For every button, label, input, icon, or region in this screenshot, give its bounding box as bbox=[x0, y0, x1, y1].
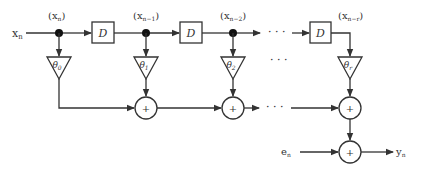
gain-triangle-0: θ0 bbox=[47, 57, 71, 79]
ellipsis-middle: · · · bbox=[270, 54, 287, 67]
line-delay-r-to-gain-r bbox=[331, 33, 350, 56]
svg-text:D: D bbox=[186, 27, 196, 40]
output-label: yn bbox=[395, 146, 406, 158]
gain-triangle-1: θ1 bbox=[134, 57, 158, 79]
svg-text:+: + bbox=[346, 147, 354, 158]
delay-box-r: D bbox=[310, 22, 331, 43]
svg-text:+: + bbox=[229, 103, 237, 114]
output-adder: + bbox=[339, 141, 361, 163]
delay-box-1: D bbox=[92, 22, 114, 43]
adder-2: + bbox=[222, 97, 244, 119]
svg-text:D: D bbox=[315, 27, 325, 40]
svg-text:+: + bbox=[142, 103, 150, 114]
tap-label-r: (xn−r) bbox=[338, 10, 363, 22]
tap-label-2: (xn−2) bbox=[220, 10, 246, 22]
tap-label-0: (xn) bbox=[48, 10, 65, 22]
fir-filter-diagram: xn · · · (xn) (xn−1) (xn−2) (xn−r) D D D… bbox=[0, 0, 421, 173]
adder-r: + bbox=[339, 97, 361, 119]
delay-box-2: D bbox=[180, 22, 202, 43]
adder-1: + bbox=[135, 97, 157, 119]
arrow-gain0-adder1 bbox=[59, 79, 134, 108]
ellipsis-top: · · · bbox=[268, 26, 285, 39]
svg-text:D: D bbox=[98, 27, 108, 40]
svg-text:+: + bbox=[346, 103, 354, 114]
tap-label-1: (xn−1) bbox=[133, 10, 159, 22]
gain-triangle-2: θ2 bbox=[221, 57, 245, 79]
ellipsis-bottom: · · · bbox=[266, 101, 283, 114]
noise-label: en bbox=[281, 146, 291, 158]
input-label: xn bbox=[12, 27, 23, 41]
gain-triangle-r: θr bbox=[338, 57, 362, 79]
